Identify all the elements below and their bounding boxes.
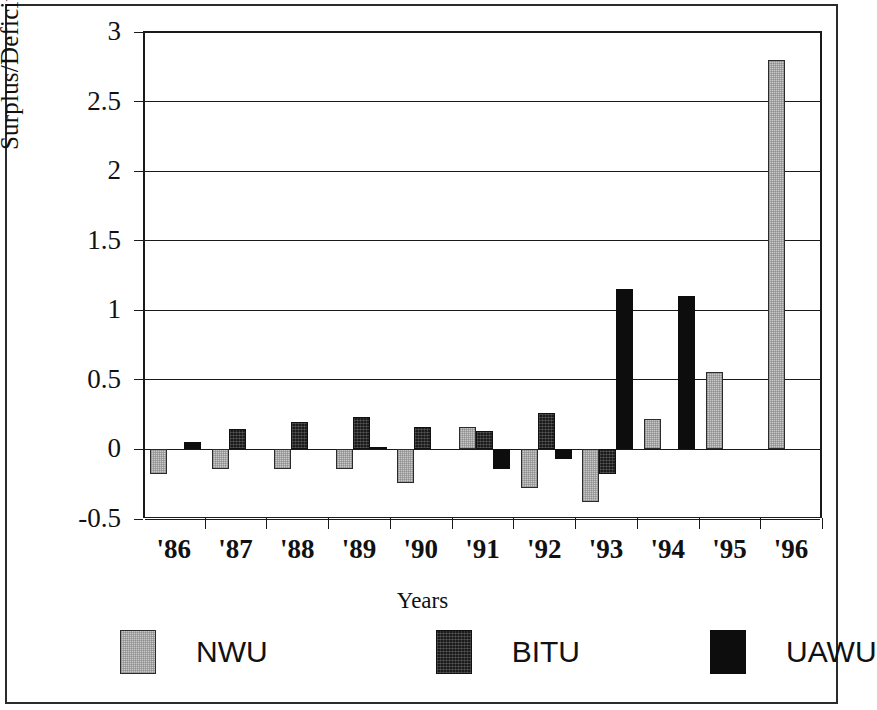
y-tick-label: 2.5 — [0, 87, 121, 114]
x-tick-mark — [328, 518, 329, 529]
y-tick-mark — [134, 101, 143, 102]
plot-area — [143, 31, 822, 518]
legend-swatch-bitu-icon — [436, 630, 472, 674]
x-tick-mark — [760, 518, 761, 529]
bar-bitu-89 — [353, 417, 370, 449]
x-tick-mark — [699, 518, 700, 529]
x-tick-mark — [266, 518, 267, 529]
bar-nwu-87 — [212, 449, 229, 468]
bar-uawu-94 — [678, 296, 695, 449]
y-tick-label: 0 — [0, 435, 121, 462]
chart-legend: NWU BITU UAWU — [120, 630, 877, 674]
x-tick-mark — [513, 518, 514, 529]
bar-uawu-92 — [555, 449, 572, 459]
x-tick-label: '89 — [342, 534, 377, 565]
y-tick-label: 1.5 — [0, 226, 121, 253]
y-tick-mark — [134, 171, 143, 172]
x-tick-label: '92 — [527, 534, 562, 565]
y-tick-mark — [134, 240, 143, 241]
bar-uawu-91 — [493, 449, 510, 468]
x-tick-label: '93 — [589, 534, 624, 565]
x-tick-label: '86 — [157, 534, 192, 565]
legend-label-nwu: NWU — [196, 635, 268, 669]
x-tick-label: '95 — [712, 534, 747, 565]
bar-bitu-87 — [229, 429, 246, 450]
bar-nwu-91 — [459, 427, 476, 449]
y-tick-mark — [134, 449, 143, 450]
bar-bitu-91 — [476, 431, 493, 449]
x-tick-mark — [575, 518, 576, 529]
bar-uawu-86 — [184, 442, 201, 449]
bar-nwu-96 — [768, 60, 785, 450]
bar-nwu-95 — [706, 372, 723, 450]
bar-uawu-89 — [370, 447, 387, 450]
y-tick-mark — [134, 32, 143, 33]
gridline — [145, 519, 820, 520]
bar-bitu-90 — [414, 427, 431, 449]
x-axis-title: Years — [0, 588, 845, 614]
x-tick-label: '91 — [465, 534, 500, 565]
x-tick-label: '88 — [280, 534, 315, 565]
x-tick-mark — [637, 518, 638, 529]
y-tick-label: 3 — [0, 18, 121, 45]
legend-swatch-nwu-icon — [120, 630, 156, 674]
bar-nwu-88 — [274, 449, 291, 468]
y-tick-label: 1 — [0, 296, 121, 323]
legend-swatch-uawu-icon — [710, 630, 746, 674]
y-tick-label: -0.5 — [0, 505, 121, 532]
legend-label-bitu: BITU — [512, 635, 580, 669]
y-tick-label: 2 — [0, 157, 121, 184]
bar-uawu-93 — [616, 289, 633, 449]
bar-bitu-92 — [538, 413, 555, 449]
y-tick-mark — [134, 519, 143, 520]
y-tick-label: 0.5 — [0, 365, 121, 392]
bar-nwu-92 — [521, 449, 538, 488]
x-tick-mark — [822, 518, 823, 529]
bars-layer — [145, 32, 820, 517]
bar-nwu-94 — [644, 419, 661, 450]
y-tick-mark — [134, 379, 143, 380]
legend-item-nwu: NWU — [120, 630, 268, 674]
x-tick-label: '90 — [404, 534, 439, 565]
legend-item-uawu: UAWU — [710, 630, 877, 674]
x-tick-label: '87 — [218, 534, 253, 565]
bar-bitu-88 — [291, 422, 308, 450]
x-tick-label: '96 — [774, 534, 809, 565]
x-tick-mark — [390, 518, 391, 529]
x-tick-mark — [452, 518, 453, 529]
x-tick-mark — [205, 518, 206, 529]
bar-nwu-93 — [582, 449, 599, 502]
bar-bitu-93 — [599, 449, 616, 474]
bar-nwu-86 — [150, 449, 167, 474]
y-tick-mark — [134, 310, 143, 311]
bar-nwu-90 — [397, 449, 414, 482]
x-tick-label: '94 — [650, 534, 685, 565]
bar-nwu-89 — [336, 449, 353, 468]
legend-item-bitu: BITU — [436, 630, 580, 674]
legend-label-uawu: UAWU — [786, 635, 877, 669]
